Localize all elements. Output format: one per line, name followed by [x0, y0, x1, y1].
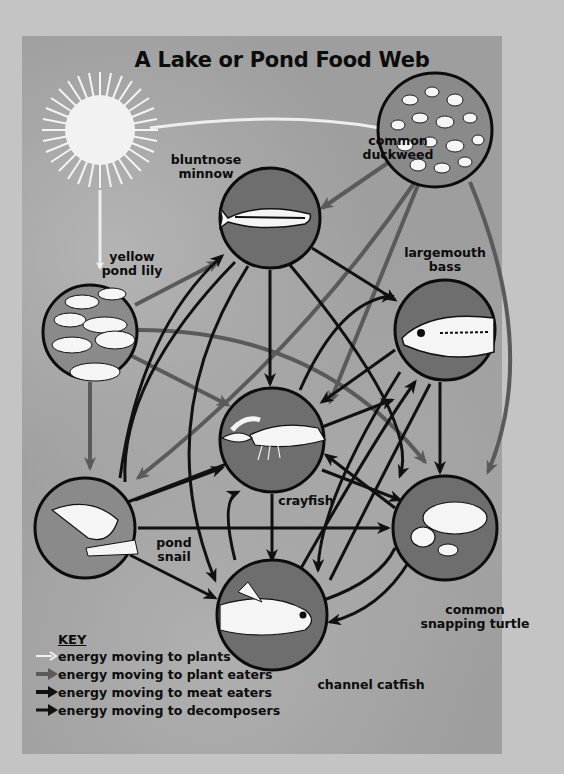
- label-crayfish: crayfish: [276, 494, 336, 508]
- legend: KEY energy moving to plants energy movin…: [36, 632, 280, 719]
- label-minnow: bluntnose minnow: [166, 153, 246, 181]
- duckweed-circle: [378, 73, 492, 187]
- label-turtle-line1: common: [420, 603, 530, 617]
- snail-circle: [35, 478, 138, 578]
- legend-item-decomposers: energy moving to decomposers: [36, 701, 280, 719]
- label-bass: largemouth bass: [400, 246, 490, 274]
- label-snail-line1: pond: [156, 536, 192, 550]
- label-lily: yellow pond lily: [92, 250, 172, 278]
- gray-arrow-icon: [36, 668, 58, 680]
- sun-icon: [42, 72, 158, 188]
- lily-circle: [43, 285, 137, 381]
- label-turtle: common snapping turtle: [420, 603, 530, 631]
- label-minnow-line1: bluntnose: [166, 153, 246, 167]
- bass-circle: [395, 280, 495, 380]
- label-minnow-line2: minnow: [166, 167, 246, 181]
- legend-label: energy moving to plant eaters: [58, 667, 273, 682]
- label-snail-line2: snail: [156, 550, 192, 564]
- legend-item-plants: energy moving to plants: [36, 647, 280, 665]
- label-catfish: channel catfish: [316, 678, 426, 692]
- turtle-circle: [393, 476, 497, 580]
- label-duckweed-line1: common: [358, 134, 438, 148]
- legend-title: KEY: [58, 632, 280, 647]
- legend-item-meat-eaters: energy moving to meat eaters: [36, 683, 280, 701]
- label-duckweed-line2: duckweed: [358, 148, 438, 162]
- legend-label: energy moving to plants: [58, 649, 231, 664]
- label-duckweed: common duckweed: [358, 134, 438, 162]
- label-lily-line1: yellow: [92, 250, 172, 264]
- legend-item-plant-eaters: energy moving to plant eaters: [36, 665, 280, 683]
- label-bass-line2: bass: [400, 260, 490, 274]
- legend-label: energy moving to decomposers: [58, 703, 280, 718]
- label-snail: pond snail: [156, 536, 192, 564]
- white-arrow-icon: [36, 650, 58, 662]
- minnow-circle: [220, 168, 320, 268]
- black-arrow-icon: [36, 704, 58, 716]
- crayfish-circle: [220, 388, 325, 492]
- label-lily-line2: pond lily: [92, 264, 172, 278]
- label-bass-line1: largemouth: [400, 246, 490, 260]
- page-title: A Lake or Pond Food Web: [0, 48, 564, 72]
- legend-label: energy moving to meat eaters: [58, 685, 272, 700]
- black-arrow-icon: [36, 686, 58, 698]
- label-turtle-line2: snapping turtle: [420, 617, 530, 631]
